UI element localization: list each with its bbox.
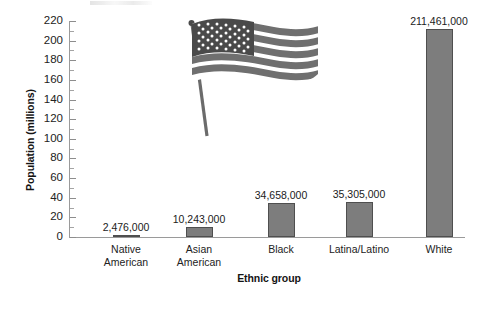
y-tick-200 [70, 41, 76, 42]
y-minor-tick [70, 50, 74, 51]
y-tick-180 [70, 60, 76, 61]
y-tick-label-100: 100 [23, 133, 63, 145]
y-tick-120 [70, 119, 76, 120]
y-tick-label-160: 160 [23, 74, 63, 86]
y-tick-0 [70, 237, 76, 238]
bar [186, 227, 213, 237]
y-minor-tick [70, 70, 74, 71]
y-tick-220 [70, 21, 76, 22]
bar [346, 202, 373, 237]
y-minor-tick [70, 208, 74, 209]
y-tick-label-40: 40 [23, 192, 63, 204]
y-tick-label-220: 220 [23, 15, 63, 27]
y-tick-20 [70, 217, 76, 218]
bar-value-label: 10,243,000 [144, 214, 254, 225]
y-tick-label-200: 200 [23, 35, 63, 47]
y-tick-80 [70, 158, 76, 159]
y-minor-tick [70, 168, 74, 169]
y-minor-tick [70, 129, 74, 130]
y-tick-100 [70, 139, 76, 140]
bar-value-label: 211,461,000 [384, 16, 485, 27]
category-label: White [389, 243, 485, 256]
x-axis-line [69, 237, 465, 238]
y-tick-40 [70, 198, 76, 199]
y-tick-label-120: 120 [23, 113, 63, 125]
y-tick-label-140: 140 [23, 94, 63, 106]
y-tick-label-20: 20 [23, 211, 63, 223]
y-minor-tick [70, 31, 74, 32]
bar [113, 235, 140, 238]
cropped-caption-remnant [90, 1, 152, 5]
y-tick-60 [70, 178, 76, 179]
y-minor-tick [70, 188, 74, 189]
bar [268, 203, 295, 237]
x-axis-title: Ethnic group [0, 272, 485, 284]
y-minor-tick [70, 109, 74, 110]
y-minor-tick [70, 149, 74, 150]
y-tick-label-0: 0 [23, 231, 63, 243]
y-tick-label-80: 80 [23, 152, 63, 164]
y-tick-160 [70, 80, 76, 81]
y-tick-140 [70, 100, 76, 101]
y-minor-tick [70, 90, 74, 91]
plot-area: 2,476,00010,243,00034,658,00035,305,0002… [69, 21, 465, 238]
bar [426, 29, 453, 237]
bar-chart-figure: Population (millions) 2,476,00010,243,00… [0, 0, 485, 311]
y-tick-label-60: 60 [23, 172, 63, 184]
y-tick-label-180: 180 [23, 54, 63, 66]
bar-value-label: 35,305,000 [304, 189, 414, 200]
